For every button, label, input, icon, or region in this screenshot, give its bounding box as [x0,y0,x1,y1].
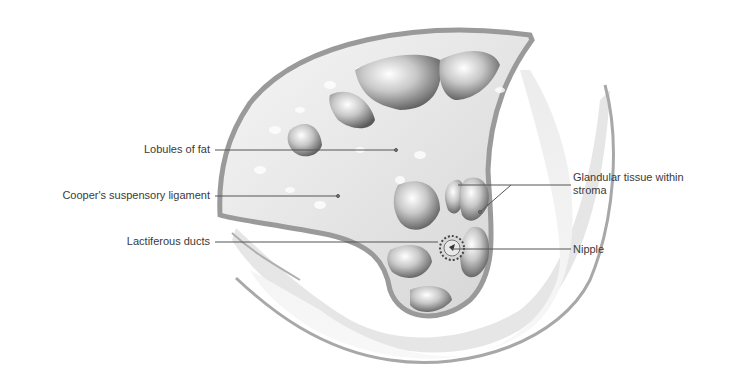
label-lobules-of-fat: Lobules of fat [144,143,210,156]
label-lactiferous-ducts: Lactiferous ducts [127,235,210,248]
nipple-shape [440,236,464,260]
label-nipple: Nipple [573,243,604,256]
label-glandular-tissue-line2: stroma [573,184,684,197]
label-glandular-tissue: Glandular tissue within stroma [573,171,684,197]
label-coopers-ligament: Cooper's suspensory ligament [62,189,210,202]
label-glandular-tissue-line1: Glandular tissue within [573,171,684,184]
